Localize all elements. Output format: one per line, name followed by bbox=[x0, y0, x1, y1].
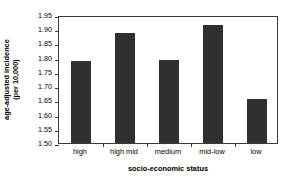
y-axis-tick-label: 1.85 bbox=[38, 41, 52, 48]
y-axis-tick-label: 1.55 bbox=[38, 126, 52, 133]
bar bbox=[115, 33, 135, 143]
y-axis-tick-label: 1.50 bbox=[38, 140, 52, 147]
x-axis-tick-label: mid-low bbox=[199, 147, 224, 156]
bar bbox=[159, 60, 179, 143]
x-axis-tick-label: medium bbox=[155, 147, 181, 156]
y-axis-title-line-2: (per 10,000) bbox=[11, 40, 20, 121]
x-axis-tick-label: low bbox=[250, 147, 261, 156]
plot-inner bbox=[59, 17, 277, 143]
y-axis-title: age-adjusted incidence (per 10,000) bbox=[0, 16, 22, 144]
y-axis-tick-label: 1.70 bbox=[38, 84, 52, 91]
y-axis-tick-mark bbox=[55, 131, 59, 132]
y-axis-tick-mark bbox=[55, 31, 59, 32]
y-axis-tick-mark bbox=[55, 17, 59, 18]
y-axis-tick-mark bbox=[55, 45, 59, 46]
y-axis-tick-mark bbox=[55, 102, 59, 103]
y-axis-tick-label: 1.90 bbox=[38, 27, 52, 34]
y-axis-tick-mark bbox=[55, 145, 59, 146]
x-axis-tick-label: high mid bbox=[110, 147, 138, 156]
y-axis-tick-mark bbox=[55, 74, 59, 75]
y-axis-tick-mark bbox=[55, 117, 59, 118]
y-axis-tick-label: 1.60 bbox=[38, 112, 52, 119]
y-axis-tick-label: 1.95 bbox=[38, 12, 52, 19]
bar bbox=[247, 99, 267, 143]
y-axis-title-line-1: age-adjusted incidence bbox=[2, 40, 11, 121]
x-axis-tick-label: high bbox=[73, 147, 87, 156]
plot-area bbox=[58, 16, 278, 144]
y-axis-tick-label: 1.75 bbox=[38, 69, 52, 76]
x-axis-tick-labels: highhigh midmediummid-lowlow bbox=[58, 147, 278, 159]
y-axis-tick-mark bbox=[55, 60, 59, 61]
bar bbox=[71, 61, 91, 143]
bar-chart-figure: age-adjusted incidence (per 10,000) 1.50… bbox=[0, 0, 288, 182]
x-axis-title: socio-economic status bbox=[58, 164, 278, 173]
y-axis-tick-label: 1.65 bbox=[38, 98, 52, 105]
y-axis-tick-labels: 1.501.551.601.651.701.751.801.851.901.95 bbox=[22, 16, 54, 144]
bar bbox=[203, 25, 223, 143]
y-axis-tick-mark bbox=[55, 88, 59, 89]
y-axis-tick-label: 1.80 bbox=[38, 55, 52, 62]
